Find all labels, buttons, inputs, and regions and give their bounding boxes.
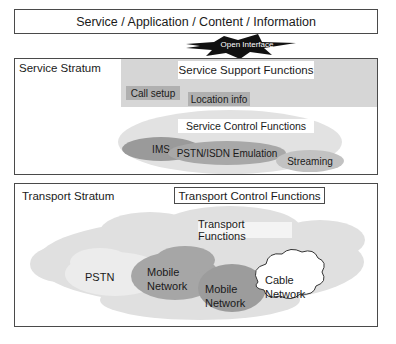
transport-functions-label: Transport Functions bbox=[198, 222, 292, 238]
mobile-network-label: Mobile Network bbox=[147, 265, 187, 293]
mobile-network-2-label: Mobile Network bbox=[205, 282, 245, 310]
pstn-network-label: PSTN bbox=[85, 270, 114, 284]
cable-network-label: Cable Network bbox=[265, 273, 305, 301]
transport-clouds bbox=[0, 0, 396, 344]
